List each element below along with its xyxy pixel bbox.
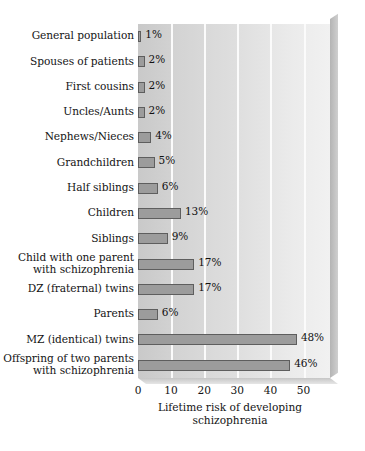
bar-value-label: 2% xyxy=(149,104,165,116)
bar xyxy=(138,284,194,295)
plot-area: 1%2%2%2%4%5%6%13%9%17%17%6%48%46% xyxy=(138,24,330,378)
x-tick-label: 30 xyxy=(231,384,244,396)
bar-row: 9% xyxy=(138,226,330,251)
bar-row: 4% xyxy=(138,125,330,150)
x-tick-label: 10 xyxy=(164,384,177,396)
bar-row: 2% xyxy=(138,49,330,74)
bar xyxy=(138,334,297,345)
bar xyxy=(138,56,145,67)
bar-row: 6% xyxy=(138,302,330,327)
bar-value-label: 6% xyxy=(162,180,178,192)
bar xyxy=(138,31,141,42)
bar xyxy=(138,233,168,244)
bar-row: 1% xyxy=(138,24,330,49)
x-axis-ticks: 01020304050 xyxy=(138,384,338,400)
category-label: Grandchildren xyxy=(0,157,134,169)
bar-value-label: 46% xyxy=(294,357,317,369)
category-label: Nephews/Nieces xyxy=(0,131,134,143)
bar-value-label: 1% xyxy=(145,28,161,40)
category-axis-labels: General populationSpouses of patientsFir… xyxy=(0,24,134,378)
category-label: Half siblings xyxy=(0,182,134,194)
x-tick-label: 0 xyxy=(135,384,142,396)
bar xyxy=(138,208,181,219)
category-label: DZ (fraternal) twins xyxy=(0,283,134,295)
bar-row: 17% xyxy=(138,252,330,277)
bar xyxy=(138,107,145,118)
bar-value-label: 48% xyxy=(301,331,324,343)
bar xyxy=(138,183,158,194)
bar-row: 6% xyxy=(138,176,330,201)
category-label: Offspring of two parents with schizophre… xyxy=(0,353,134,376)
category-label: Parents xyxy=(0,308,134,320)
bar-value-label: 2% xyxy=(149,79,165,91)
x-tick-label: 20 xyxy=(197,384,210,396)
bar-row: 46% xyxy=(138,353,330,378)
bar-value-label: 17% xyxy=(198,256,221,268)
category-label: Siblings xyxy=(0,233,134,245)
bar-row: 17% xyxy=(138,277,330,302)
category-label: Spouses of patients xyxy=(0,56,134,68)
category-label: Child with one parent with schizophrenia xyxy=(0,252,134,275)
bar-value-label: 13% xyxy=(185,205,208,217)
bar xyxy=(138,259,194,270)
bar xyxy=(138,309,158,320)
bar xyxy=(138,132,151,143)
bar xyxy=(138,82,145,93)
bar-row: 5% xyxy=(138,150,330,175)
category-label: Children xyxy=(0,207,134,219)
bar-row: 2% xyxy=(138,100,330,125)
bar xyxy=(138,157,155,168)
bar-value-label: 4% xyxy=(155,129,171,141)
category-label: MZ (identical) twins xyxy=(0,334,134,346)
plot-3d-right-face xyxy=(330,14,338,378)
bar-row: 48% xyxy=(138,327,330,352)
x-tick-label: 40 xyxy=(264,384,277,396)
bar-row: 2% xyxy=(138,75,330,100)
x-axis-title: Lifetime risk of developing schizophreni… xyxy=(120,401,340,427)
bar-value-label: 2% xyxy=(149,53,165,65)
bar-value-label: 5% xyxy=(159,154,175,166)
bar xyxy=(138,360,290,371)
x-tick-label: 50 xyxy=(297,384,310,396)
chart-figure: 1%2%2%2%4%5%6%13%9%17%17%6%48%46% Genera… xyxy=(0,0,365,451)
category-label: General population xyxy=(0,30,134,42)
category-label: Uncles/Aunts xyxy=(0,106,134,118)
bar-value-label: 6% xyxy=(162,306,178,318)
bar-row: 13% xyxy=(138,201,330,226)
bar-value-label: 17% xyxy=(198,281,221,293)
bar-value-label: 9% xyxy=(172,230,188,242)
category-label: First cousins xyxy=(0,81,134,93)
